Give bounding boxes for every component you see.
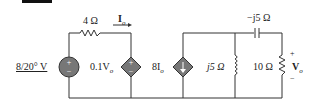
inductor-label: j5 Ω (207, 62, 225, 72)
io-label: Io (118, 14, 125, 27)
r1-label: 4 Ω (83, 16, 98, 26)
vo-plus: + (290, 50, 295, 58)
svg-text:−: − (67, 67, 72, 76)
vo-minus: − (290, 75, 295, 83)
svg-text:+: + (129, 58, 134, 67)
svg-text:+: + (67, 58, 72, 67)
capacitor-label: −j5 Ω (247, 13, 270, 23)
svg-text:−: − (129, 67, 134, 76)
r2-label: 10 Ω (253, 62, 273, 72)
dep-voltage-label: 0.1Vo (90, 62, 113, 75)
source-label: 8/20° V (16, 62, 47, 72)
dep-current-label: 8Io (152, 62, 164, 75)
